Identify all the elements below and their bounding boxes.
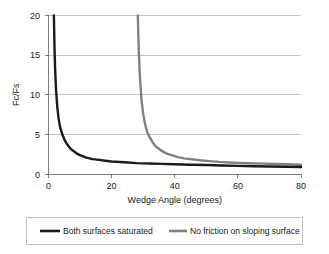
legend-label-no-friction-on-sloping-surface: No friction on sloping surface (190, 226, 300, 236)
x-axis-title: Wedge Angle (degrees) (128, 195, 222, 205)
legend: Both surfaces saturated No friction on s… (27, 218, 303, 245)
y-tick-label-20: 20 (30, 11, 40, 21)
y-tick-label-15: 15 (30, 50, 40, 60)
y-axis-title: Fc/Fs (11, 83, 21, 106)
x-tick-label-40: 40 (170, 181, 180, 191)
legend-label-both-surfaces-saturated: Both surfaces saturated (63, 226, 153, 236)
x-tick-label-60: 60 (233, 181, 243, 191)
y-tick-label-0: 0 (35, 170, 40, 180)
x-tick-label-20: 20 (107, 181, 117, 191)
figure-background (0, 0, 329, 254)
chart-svg: 20 15 10 5 0 0 20 40 60 80 Wedge Angle (… (0, 0, 329, 254)
chart-figure: 20 15 10 5 0 0 20 40 60 80 Wedge Angle (… (0, 0, 329, 254)
y-tick-label-10: 10 (30, 90, 40, 100)
x-tick-label-0: 0 (46, 181, 51, 191)
y-tick-label-5: 5 (35, 130, 40, 140)
x-tick-label-80: 80 (296, 181, 306, 191)
